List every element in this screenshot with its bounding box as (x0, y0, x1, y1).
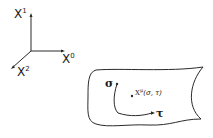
axis-arrowheads (11, 13, 65, 69)
tau-label: τ (156, 107, 163, 120)
sigma-endpoint-dot (116, 83, 118, 85)
tau-arrow-icon (151, 111, 155, 114)
x1-axis-label: X1 (14, 7, 27, 21)
x2-axis-label: X2 (17, 65, 30, 79)
x0-axis-label: X0 (62, 52, 75, 66)
string-worldsheet-diagram: X1 X0 X2 σ τ Xμ(σ, τ) (0, 0, 213, 138)
sigma-label: σ (105, 77, 113, 90)
worldsheet-point-label: Xμ(σ, τ) (135, 87, 162, 97)
x1-arrow-icon (30, 13, 33, 17)
spacetime-axes (12, 15, 63, 68)
worldsheet-point-dot (131, 95, 133, 97)
